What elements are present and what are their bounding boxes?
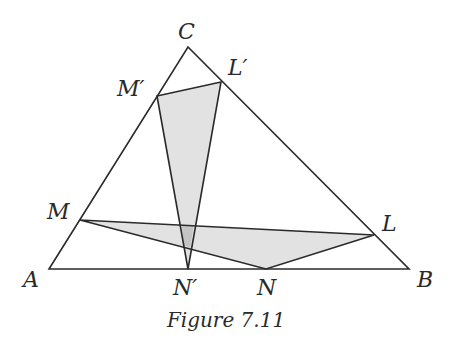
label-N-prime: N′ [172,275,197,300]
figure-caption: Figure 7.11 [166,308,285,332]
label-L: L [381,211,397,236]
label-N: N [256,275,277,300]
label-L-prime: L′ [227,55,248,80]
label-M: M [46,199,70,224]
label-C: C [178,19,195,44]
label-B: B [416,267,433,292]
figure-canvas: C L′ M′ M L A N′ N B Figure 7.11 [0,0,456,354]
label-A: A [21,267,39,292]
label-M-prime: M′ [116,76,145,101]
